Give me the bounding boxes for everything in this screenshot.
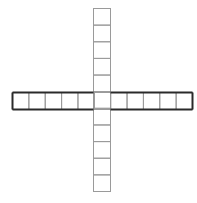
grid-cell <box>94 108 111 125</box>
grid-cell <box>94 58 111 75</box>
grid-cell <box>13 93 29 110</box>
grid-cell <box>94 92 111 109</box>
grid-cell <box>45 93 61 110</box>
cross-grid-diagram <box>0 0 197 203</box>
grid-cell <box>78 93 94 110</box>
grid-cell <box>62 93 78 110</box>
grid-cell <box>94 93 110 110</box>
grid-cell <box>111 93 127 110</box>
grid-cell <box>94 175 111 192</box>
grid-cell <box>160 93 176 110</box>
grid-cell <box>94 142 111 159</box>
grid-cell <box>29 93 45 110</box>
grid-cell <box>143 93 159 110</box>
grid-cell <box>94 158 111 175</box>
horizontal-row <box>13 93 193 110</box>
grid-cell <box>94 9 111 26</box>
grid-cell <box>94 75 111 92</box>
grid-cell <box>94 25 111 42</box>
grid-cell <box>176 93 192 110</box>
grid-cell <box>127 93 143 110</box>
grid-cell <box>94 42 111 59</box>
vertical-column <box>94 9 111 192</box>
grid-cell <box>94 125 111 142</box>
